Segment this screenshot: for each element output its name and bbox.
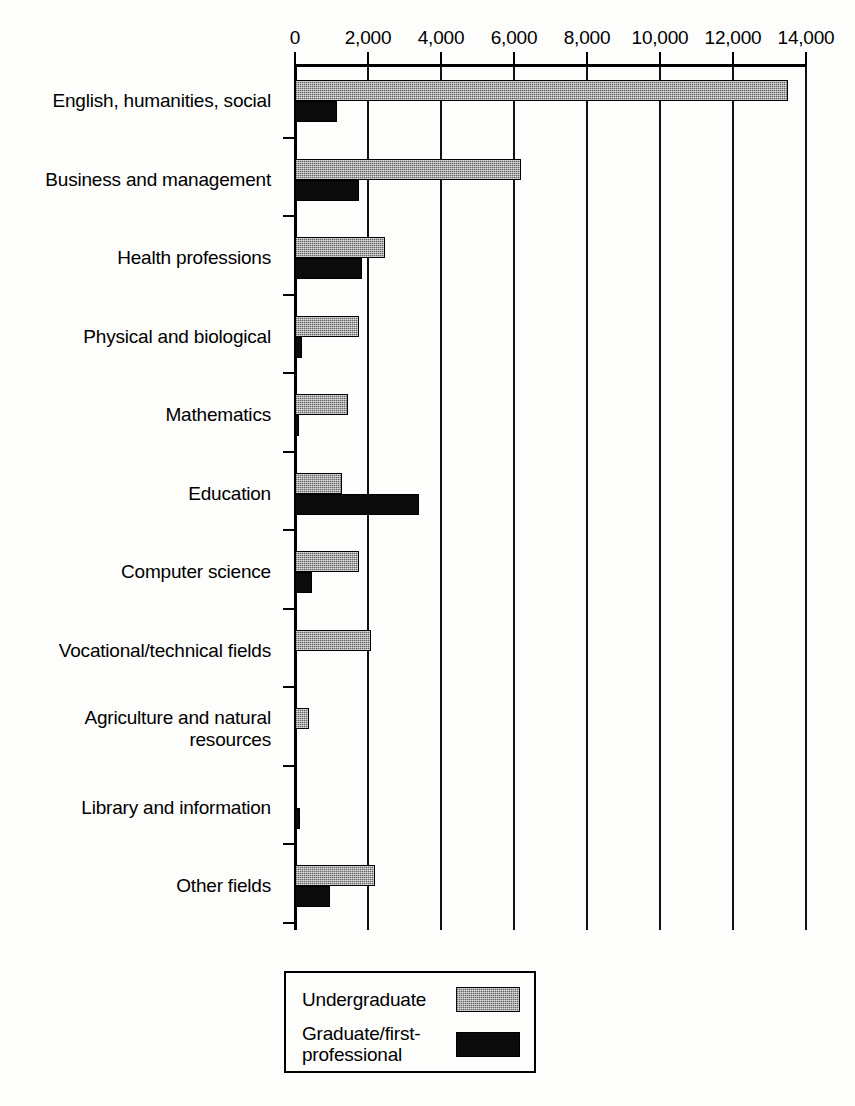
x-tick-mark <box>367 52 369 66</box>
category-label: Business and management <box>45 169 271 191</box>
bar-undergraduate <box>295 80 788 101</box>
category-label: Health professions <box>117 247 271 269</box>
category-tick <box>283 529 297 531</box>
x-tick-label: 2,000 <box>345 28 392 47</box>
x-tick-mark <box>440 52 442 66</box>
category-label-row: Mathematics <box>0 391 285 439</box>
grid-line <box>440 66 442 930</box>
category-tick <box>283 922 297 924</box>
bar-chart: 02,0004,0006,0008,00010,00012,00014,000 … <box>0 0 855 1106</box>
bar-undergraduate <box>295 316 359 337</box>
bar-graduate <box>295 101 337 122</box>
category-tick <box>283 137 297 139</box>
grid-line <box>805 66 807 930</box>
legend-swatch-grad <box>456 1032 520 1057</box>
category-label-row: Other fields <box>0 862 285 910</box>
x-tick-label: 8,000 <box>564 28 611 47</box>
category-tick <box>283 608 297 610</box>
bar-undergraduate <box>295 473 342 494</box>
bar-graduate <box>295 808 300 829</box>
legend-entry: Undergraduate <box>286 981 534 1017</box>
bar-graduate <box>295 258 362 279</box>
legend-label: Graduate/first- professional <box>302 1023 420 1065</box>
x-tick-mark <box>513 52 515 66</box>
bar-graduate <box>295 494 419 515</box>
legend-label: Undergraduate <box>302 989 426 1010</box>
category-label-row: Computer science <box>0 548 285 596</box>
category-label: Library and information <box>81 797 271 819</box>
category-label-row: Library and information <box>0 784 285 832</box>
category-label-row: Agriculture and natural resources <box>0 705 285 753</box>
category-label-row: Physical and biological <box>0 313 285 361</box>
category-tick <box>283 686 297 688</box>
x-tick-mark <box>732 52 734 66</box>
category-label: Vocational/technical fields <box>59 640 271 662</box>
grid-line <box>513 66 515 930</box>
category-tick <box>283 451 297 453</box>
category-label: Education <box>188 483 271 505</box>
category-tick <box>283 765 297 767</box>
category-label: Mathematics <box>165 404 271 426</box>
category-label-row: English, humanities, social <box>0 77 285 125</box>
category-tick <box>283 215 297 217</box>
category-label-row: Education <box>0 470 285 518</box>
x-tick-mark <box>586 52 588 66</box>
legend-swatch-undergrad <box>456 987 520 1012</box>
bar-graduate <box>295 180 359 201</box>
bar-graduate <box>295 572 312 593</box>
x-tick-mark <box>659 52 661 66</box>
category-label: English, humanities, social <box>53 90 272 112</box>
x-axis-line <box>294 64 806 67</box>
grid-line <box>586 66 588 930</box>
category-label: Agriculture and natural resources <box>84 707 271 751</box>
x-tick-label: 4,000 <box>418 28 465 47</box>
bar-graduate <box>295 886 330 907</box>
category-tick <box>283 372 297 374</box>
category-label: Other fields <box>176 875 271 897</box>
bar-undergraduate <box>295 787 297 808</box>
category-label-row: Business and management <box>0 156 285 204</box>
bar-graduate <box>295 337 302 358</box>
x-tick-mark <box>805 52 807 66</box>
category-label-row: Health professions <box>0 234 285 282</box>
x-tick-label: 0 <box>290 28 300 47</box>
chart-legend: UndergraduateGraduate/first- professiona… <box>284 971 536 1073</box>
category-tick <box>283 843 297 845</box>
bar-undergraduate <box>295 237 385 258</box>
category-label: Physical and biological <box>83 326 271 348</box>
x-tick-label: 14,000 <box>778 28 835 47</box>
category-label: Computer science <box>121 561 271 583</box>
legend-entry: Graduate/first- professional <box>286 1021 534 1067</box>
bar-undergraduate <box>295 630 371 651</box>
grid-line <box>659 66 661 930</box>
bar-graduate <box>295 415 299 436</box>
category-tick <box>283 294 297 296</box>
bar-undergraduate <box>295 708 309 729</box>
bar-undergraduate <box>295 551 359 572</box>
bar-undergraduate <box>295 159 521 180</box>
category-label-row: Vocational/technical fields <box>0 627 285 675</box>
bar-undergraduate <box>295 394 348 415</box>
bar-undergraduate <box>295 865 375 886</box>
x-tick-label: 6,000 <box>491 28 538 47</box>
x-tick-label: 10,000 <box>632 28 689 47</box>
x-tick-label: 12,000 <box>705 28 762 47</box>
grid-line <box>732 66 734 930</box>
